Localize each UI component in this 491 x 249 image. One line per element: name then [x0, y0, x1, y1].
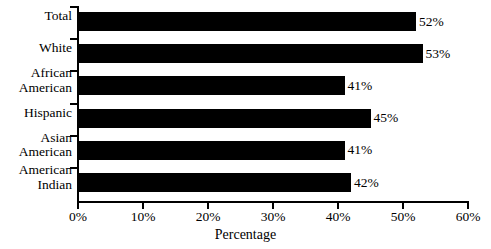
- category-label-line: American: [0, 145, 72, 160]
- bar-value-label: 41%: [345, 144, 373, 158]
- x-axis-tick-label: 0%: [56, 209, 100, 224]
- bar-fill: [78, 173, 351, 192]
- category-label: Hispanic: [0, 106, 72, 121]
- bar-value-label: 42%: [351, 176, 379, 190]
- category-label: AfricanAmerican: [0, 66, 72, 95]
- category-label-line: Total: [0, 9, 72, 24]
- bar-chart: TotalWhiteAfricanAmericanHispanicAsianAm…: [0, 0, 491, 249]
- bar-fill: [78, 76, 345, 95]
- x-axis-tick-label: 20%: [186, 209, 230, 224]
- bar-fill: [78, 141, 345, 160]
- category-label-line: American: [0, 81, 72, 96]
- bar-value-label: 52%: [416, 15, 444, 29]
- bar-total: 52%: [78, 12, 468, 31]
- category-label-line: African: [0, 66, 72, 81]
- category-label: AmericanIndian: [0, 163, 72, 192]
- category-label-line: American: [0, 163, 72, 178]
- category-label-line: White: [0, 41, 72, 56]
- bar-african-american: 41%: [78, 76, 468, 95]
- x-axis-tick-label: 10%: [121, 209, 165, 224]
- x-axis-tick-label: 60%: [446, 209, 490, 224]
- bar-fill: [78, 44, 423, 63]
- x-axis-title: Percentage: [0, 227, 491, 243]
- bar-value-label: 41%: [345, 79, 373, 93]
- category-label-line: Asian: [0, 131, 72, 146]
- bar-white: 53%: [78, 44, 468, 63]
- x-axis-tick-label: 40%: [316, 209, 360, 224]
- category-label: Total: [0, 9, 72, 24]
- category-label: White: [0, 41, 72, 56]
- category-label-line: Indian: [0, 178, 72, 193]
- x-axis-tick-label: 30%: [251, 209, 295, 224]
- bar-fill: [78, 12, 416, 31]
- bar-hispanic: 45%: [78, 109, 468, 128]
- bar-fill: [78, 109, 371, 128]
- category-label-line: Hispanic: [0, 106, 72, 121]
- bar-value-label: 45%: [371, 111, 399, 125]
- bar-value-label: 53%: [423, 47, 451, 61]
- bar-american-indian: 42%: [78, 173, 468, 192]
- category-label: AsianAmerican: [0, 131, 72, 160]
- bar-asian-american: 41%: [78, 141, 468, 160]
- x-axis-tick-label: 50%: [381, 209, 425, 224]
